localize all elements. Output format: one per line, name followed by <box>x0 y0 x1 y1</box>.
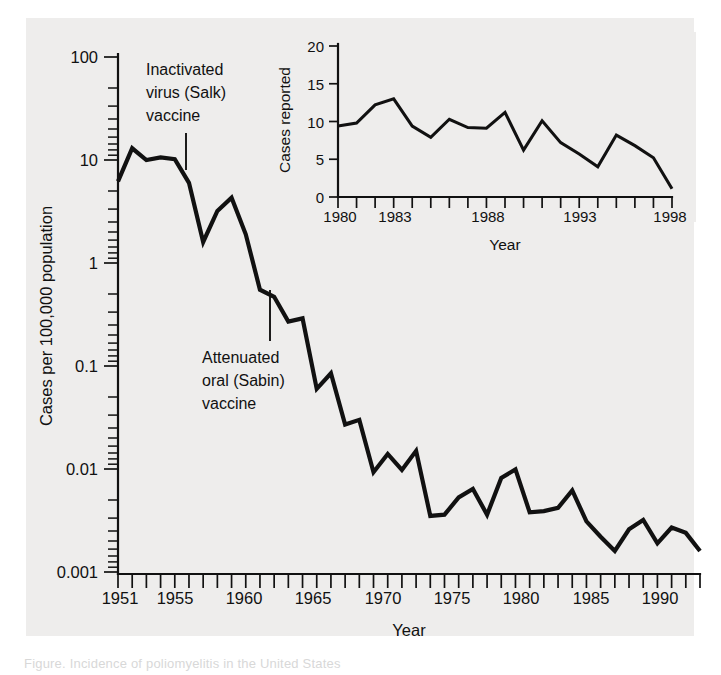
inset-y-axis-title: Cases reported <box>276 67 293 173</box>
main-x-tick-label: 1985 <box>573 589 610 607</box>
main-x-tick-label: 1965 <box>295 589 332 607</box>
inset-chart: 20 15 10 5 0 Cases reported 1980 1983 19… <box>276 32 696 253</box>
main-y-tick-label: 1 <box>89 254 98 272</box>
inset-y-tick-label: 20 <box>307 38 324 55</box>
inset-y-tick-label: 0 <box>316 189 324 206</box>
main-y-tick-label: 0.001 <box>57 563 98 581</box>
annotation-sabin-line1: Attenuated <box>202 349 279 366</box>
inset-background <box>300 32 696 222</box>
inset-x-tick-label: 1993 <box>563 208 596 225</box>
main-y-tick-label: 0.1 <box>75 357 98 375</box>
annotation-salk-line1: Inactivated <box>146 61 223 78</box>
main-x-tick-label: 1980 <box>503 589 540 607</box>
main-y-tick-label: 10 <box>80 151 98 169</box>
main-x-tick-label: 1975 <box>434 589 471 607</box>
inset-y-tick-label: 10 <box>307 114 324 131</box>
polio-incidence-chart: 100 10 1 0.1 0.01 0.001 Cases per 100,00… <box>0 0 721 675</box>
annotation-salk-line2: virus (Salk) <box>146 84 226 101</box>
main-x-tick-label: 1970 <box>365 589 402 607</box>
main-y-tick-labels: 100 10 1 0.1 0.01 0.001 <box>57 48 98 581</box>
main-x-tick-labels: 1951 1955 1960 1965 1970 1975 1980 1985 … <box>102 589 679 607</box>
inset-x-tick-label: 1988 <box>471 208 504 225</box>
inset-x-tick-label: 1980 <box>323 208 356 225</box>
main-x-tick-label: 1990 <box>642 589 679 607</box>
annotation-salk-line3: vaccine <box>146 107 200 124</box>
main-y-tick-label: 100 <box>70 48 98 66</box>
annotation-sabin-line3: vaccine <box>202 395 256 412</box>
annotation-sabin-line2: oral (Sabin) <box>202 372 285 389</box>
main-y-major-ticks <box>104 57 118 572</box>
annotation-sabin: Attenuated oral (Sabin) vaccine <box>202 290 285 412</box>
caption-strip: Figure. Incidence of poliomyelitis in th… <box>0 636 721 675</box>
annotation-salk: Inactivated virus (Salk) vaccine <box>146 61 226 170</box>
main-x-tick-label: 1951 <box>102 589 139 607</box>
main-x-tick-label: 1955 <box>157 589 194 607</box>
main-y-tick-label: 0.01 <box>66 460 98 478</box>
inset-y-tick-label: 15 <box>307 76 324 93</box>
inset-x-tick-label: 1983 <box>378 208 411 225</box>
inset-x-tick-label: 1998 <box>653 208 686 225</box>
figure-container: 100 10 1 0.1 0.01 0.001 Cases per 100,00… <box>0 0 721 675</box>
caption-partial-text: Figure. Incidence of poliomyelitis in th… <box>24 656 341 671</box>
main-x-tick-label: 1960 <box>226 589 263 607</box>
main-y-axis-title: Cases per 100,000 population <box>37 206 55 426</box>
inset-x-axis-title: Year <box>489 236 520 253</box>
main-x-ticks <box>118 574 700 588</box>
inset-y-tick-label: 5 <box>316 151 324 168</box>
